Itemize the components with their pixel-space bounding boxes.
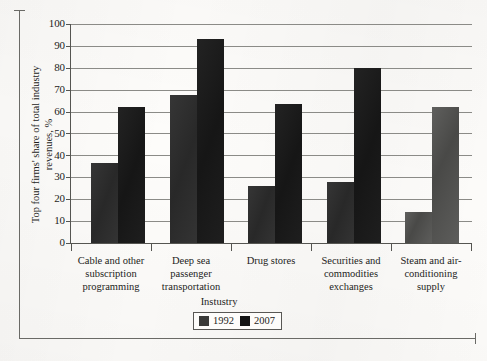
label-line: Securities and [321,255,380,266]
label-line: Drug stores [247,255,296,266]
x-category-label-steam: Steam and air- conditioning supply [388,254,474,293]
legend-entry-2007: 2007 [240,315,275,326]
bar-2007-securities [354,68,381,243]
label-line: conditioning [404,268,457,279]
legend-swatch-icon-2007 [240,316,250,326]
bar-2007-drug-stores [275,104,302,243]
x-axis-line [71,243,472,244]
x-axis-title: Instustry [159,296,279,308]
figure-frame-left-cap [14,10,25,11]
legend-entry-1992: 1992 [199,315,234,326]
label-line: transportation [162,281,220,292]
x-tick-mark [391,244,392,251]
bar-2007-cable [118,107,145,243]
x-tick-mark [471,244,472,251]
bar-1992-deep-sea [170,95,197,243]
legend-label-1992: 1992 [213,315,234,326]
figure-frame-bottom-cap [475,333,476,344]
gridline [71,90,472,91]
x-category-label-drug-stores: Drug stores [228,254,314,267]
figure-frame-bottom-rule [19,338,476,339]
label-line: exchanges [329,281,373,292]
label-line: Deep sea [172,255,210,266]
label-line: programming [82,281,139,292]
figure-frame-left-rule [19,10,20,339]
y-axis-title-line1: Top four firms' share of total industry [30,66,41,223]
label-line: passenger [170,268,211,279]
gridline [71,68,472,69]
gridline [71,24,472,25]
bar-1992-steam [405,212,432,243]
gridline [71,46,472,47]
y-axis-title: Top four firms' share of total industry … [30,40,55,250]
label-line: subscription [85,268,136,279]
x-category-label-securities: Securities and commodities exchanges [308,254,394,293]
bar-1992-securities [327,182,354,243]
label-line: Steam and air- [400,255,461,266]
bar-1992-cable [91,163,118,243]
x-category-label-deep-sea: Deep sea passenger transportation [148,254,234,293]
chart-legend: 1992 2007 [193,312,282,330]
legend-swatch-icon-1992 [199,316,209,326]
bar-2007-steam [432,107,459,243]
legend-label-2007: 2007 [254,315,275,326]
label-line: Cable and other [78,255,144,266]
chart-figure: 100 90 80 70 60 50 40 30 20 10 0 Top fou… [0,0,487,361]
y-tick-label: 100 [39,18,65,29]
bar-1992-drug-stores [248,186,275,243]
label-line: supply [417,281,445,292]
x-tick-mark [231,244,232,251]
x-tick-mark [151,244,152,251]
x-category-label-cable: Cable and other subscription programming [68,254,154,293]
x-tick-mark [71,244,72,251]
x-tick-mark [311,244,312,251]
label-line: commodities [324,268,378,279]
bar-2007-deep-sea [197,39,224,243]
plot-area [71,24,472,243]
y-axis-title-line2: revenues, % [42,119,53,170]
